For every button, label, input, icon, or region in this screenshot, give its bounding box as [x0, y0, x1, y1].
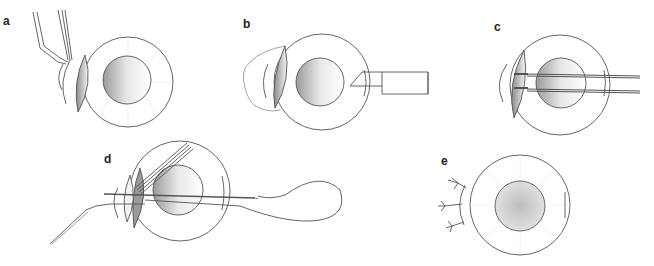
pupil-c — [536, 58, 586, 108]
incision-arc-e — [460, 185, 465, 225]
lens-d — [124, 175, 133, 222]
conjunctiva-a — [63, 60, 70, 104]
panel-e — [438, 155, 570, 255]
pupil-e — [495, 181, 545, 231]
pupil-a — [103, 56, 151, 104]
incision-arc-b — [263, 64, 268, 98]
panel-a — [33, 10, 173, 127]
pupil-d — [153, 165, 203, 215]
sutures-e — [438, 178, 466, 232]
panel-d — [50, 141, 342, 244]
forceps-a — [33, 10, 72, 64]
incision-arc-c — [499, 64, 507, 102]
figure-canvas — [0, 0, 654, 266]
panel-b — [243, 34, 428, 130]
lens-a — [76, 55, 88, 112]
pupil-b — [296, 58, 344, 106]
panel-c — [499, 35, 640, 135]
